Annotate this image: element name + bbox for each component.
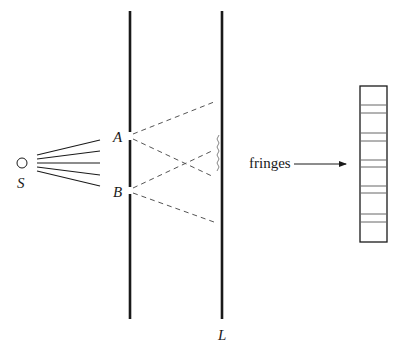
slit-a-label: A [112, 129, 123, 145]
wave-paths [133, 102, 214, 222]
light-source: S [17, 140, 100, 191]
source-label: S [17, 175, 25, 191]
fringe-panel-frame [360, 86, 387, 242]
screen-fringe-marks [217, 135, 219, 171]
slit-b-label: B [113, 184, 122, 200]
source-circle-icon [17, 158, 27, 168]
wave-path-b-lower [133, 193, 214, 222]
fringe-lines [360, 105, 387, 222]
fringes-label: fringes [249, 155, 291, 171]
double-slit-diagram: S A B L fringes [0, 0, 406, 355]
wave-path-b-upper [133, 150, 214, 188]
fringe-pattern-panel [360, 86, 387, 242]
screen-label: L [217, 327, 226, 343]
wave-path-a-upper [133, 102, 214, 134]
wave-path-a-lower [133, 139, 214, 177]
source-rays [37, 140, 100, 186]
